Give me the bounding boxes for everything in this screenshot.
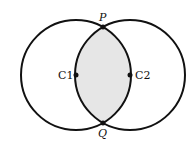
two-circles-diagram: P Q C1 C2 [0, 0, 196, 146]
label-c1: C1 [58, 69, 73, 82]
point-p-dot [101, 25, 106, 30]
label-p: P [98, 11, 107, 24]
label-c2: C2 [135, 69, 150, 82]
point-q-dot [101, 121, 106, 126]
label-q: Q [98, 127, 107, 140]
intersection-lens [75, 27, 131, 123]
center-c2-dot [128, 73, 133, 78]
center-c1-dot [74, 73, 79, 78]
